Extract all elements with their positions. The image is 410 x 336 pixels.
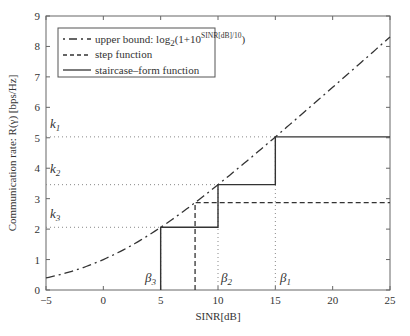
y-tick-label: 0: [35, 284, 41, 296]
chart: −505101520250123456789 k1 k2 k3 β3 β2 β1…: [0, 0, 410, 336]
x-tick-label: 5: [158, 294, 164, 306]
y-tick-label: 5: [35, 132, 41, 144]
x-tick-label: 25: [385, 294, 397, 306]
y-tick-label: 7: [35, 71, 41, 83]
y-tick-label: 6: [35, 101, 41, 113]
beta3-label: β3: [144, 270, 156, 287]
y-tick-label: 2: [35, 223, 41, 235]
beta2-label: β2: [220, 270, 232, 287]
y-tick-label: 8: [35, 40, 41, 52]
y-tick-label: 9: [35, 10, 41, 22]
y-tick-label: 4: [35, 162, 41, 174]
beta1-label: β1: [279, 270, 291, 287]
legend: upper bound: log2(1+10SINR[dB]/10) step …: [58, 28, 245, 77]
y-tick-label: 3: [35, 193, 41, 205]
x-tick-label: −5: [40, 294, 52, 306]
y-axis-label: Communication rate: R(γ) [bps/Hz]: [6, 75, 19, 232]
x-tick-label: 10: [213, 294, 225, 306]
x-tick-label: 20: [327, 294, 339, 306]
x-tick-label: 0: [101, 294, 107, 306]
legend-step-function: step function: [95, 48, 153, 60]
x-axis-label: SINR[dB]: [195, 310, 240, 322]
legend-staircase-function: staircase–form function: [95, 64, 200, 76]
k1-label: k1: [50, 116, 60, 133]
k2-label: k2: [50, 161, 61, 178]
x-tick-label: 15: [270, 294, 282, 306]
k3-label: k3: [50, 206, 61, 223]
y-tick-label: 1: [35, 254, 41, 266]
